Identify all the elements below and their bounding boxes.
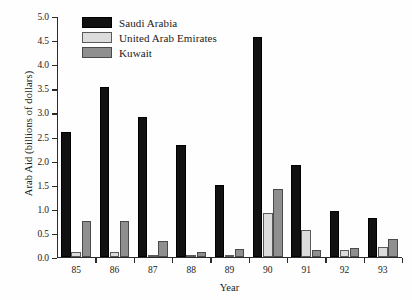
bar-91-series-1 [301, 230, 311, 257]
plot-area: 0.00.51.01.52.02.53.03.54.04.55.0 858687… [57, 17, 402, 258]
y-tick-label: 0.0 [37, 253, 49, 263]
x-tick-mark [402, 258, 403, 263]
x-tick-label: 93 [378, 265, 388, 275]
x-tick-label: 89 [225, 265, 235, 275]
bar-93-series-2 [388, 239, 398, 257]
x-tick-mark [134, 258, 135, 263]
bar-85-series-1 [71, 252, 81, 257]
y-tick-mark [52, 210, 57, 211]
y-tick-mark [52, 113, 57, 114]
bar-91-series-0 [291, 165, 301, 257]
y-tick-mark [52, 234, 57, 235]
bar-93-series-0 [368, 218, 378, 257]
x-tick-label: 85 [71, 265, 81, 275]
y-tick-label: 3.5 [37, 84, 49, 94]
x-tick-mark [287, 258, 288, 263]
y-tick-label: 4.0 [37, 60, 49, 70]
bar-87-series-2 [158, 241, 168, 256]
x-tick-mark [172, 258, 173, 263]
bar-89-series-1 [225, 255, 235, 257]
bar-87-series-1 [148, 255, 158, 257]
x-tick-label: 87 [148, 265, 158, 275]
y-axis-line [57, 17, 58, 258]
y-tick-mark [52, 138, 57, 139]
x-tick-mark [249, 258, 250, 263]
bar-88-series-1 [186, 255, 196, 257]
bar-92-series-0 [330, 211, 340, 257]
y-tick-label: 1.0 [37, 205, 49, 215]
x-tick-mark [95, 258, 96, 263]
x-tick-mark [210, 258, 211, 263]
y-tick-mark [52, 258, 57, 259]
bar-93-series-1 [378, 247, 388, 257]
x-tick-label: 92 [340, 265, 350, 275]
x-tick-mark [364, 258, 365, 263]
x-axis-label: Year [57, 282, 402, 293]
bar-90-series-0 [253, 37, 263, 257]
x-tick-label: 91 [301, 265, 311, 275]
bar-91-series-2 [312, 250, 322, 257]
bar-86-series-1 [110, 252, 120, 257]
bar-89-series-2 [235, 249, 245, 257]
y-tick-label: 3.0 [37, 108, 49, 118]
y-tick-label: 0.5 [37, 229, 49, 239]
bar-92-series-1 [340, 250, 350, 257]
y-axis-label: Arab Aid (billions of dollars) [23, 44, 34, 224]
bar-88-series-0 [176, 145, 186, 257]
y-tick-label: 4.5 [37, 36, 49, 46]
y-tick-mark [52, 186, 57, 187]
x-tick-label: 90 [263, 265, 273, 275]
bar-88-series-2 [197, 252, 207, 257]
bar-85-series-0 [61, 132, 71, 257]
bar-92-series-2 [350, 248, 360, 257]
x-tick-mark [325, 258, 326, 263]
x-tick-label: 86 [110, 265, 120, 275]
y-tick-label: 2.0 [37, 157, 49, 167]
x-axis-line [57, 257, 402, 258]
y-tick-mark [52, 41, 57, 42]
bar-87-series-0 [138, 117, 148, 257]
y-tick-label: 5.0 [37, 12, 49, 22]
y-tick-mark [52, 17, 57, 18]
bar-89-series-0 [215, 185, 225, 256]
y-tick-mark [52, 89, 57, 90]
y-tick-label: 2.5 [37, 133, 49, 143]
bar-86-series-0 [100, 87, 110, 257]
x-tick-label: 88 [186, 265, 196, 275]
y-tick-mark [52, 65, 57, 66]
y-tick-mark [52, 162, 57, 163]
bar-85-series-2 [82, 221, 92, 257]
bar-86-series-2 [120, 221, 130, 257]
bar-chart-figure: Arab Aid (billions of dollars) Saudi Ara… [0, 0, 412, 300]
bar-90-series-1 [263, 213, 273, 256]
bar-90-series-2 [273, 189, 283, 256]
y-tick-label: 1.5 [37, 181, 49, 191]
